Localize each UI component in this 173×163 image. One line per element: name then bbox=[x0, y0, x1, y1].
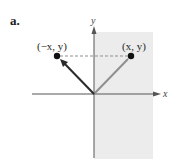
y-axis-arrow-icon bbox=[92, 26, 97, 34]
point-label-neg-x-y: (−x, y) bbox=[37, 40, 67, 52]
reflected-vector bbox=[63, 62, 94, 94]
part-label: a. bbox=[10, 13, 20, 29]
x-axis-label: x bbox=[163, 88, 167, 99]
point-neg-x-y bbox=[54, 53, 60, 59]
y-axis-label: y bbox=[91, 15, 95, 26]
coordinate-plane bbox=[0, 0, 173, 163]
point-label-x-y: (x, y) bbox=[122, 40, 146, 52]
point-x-y bbox=[128, 53, 134, 59]
reflection-diagram: a. (−x, y) (x, y) y x bbox=[0, 0, 173, 163]
x-axis-arrow-icon bbox=[153, 92, 161, 97]
